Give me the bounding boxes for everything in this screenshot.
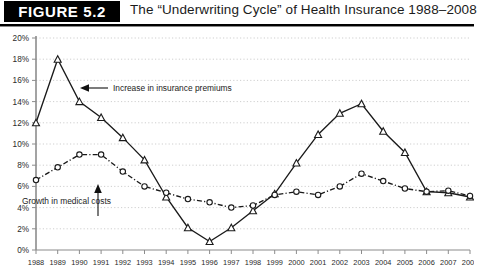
x-tick-label: 2001 xyxy=(310,258,326,267)
x-tick-label: 1997 xyxy=(223,258,239,267)
x-tick-label: 2007 xyxy=(440,258,456,267)
x-tick-label: 1989 xyxy=(49,258,65,267)
data-point-marker xyxy=(142,184,147,189)
y-tick-label: 2% xyxy=(17,225,29,234)
x-tick-label: 2003 xyxy=(353,258,369,267)
chart-area: 0%2%4%6%8%10%12%14%16%18%20% 19881989199… xyxy=(0,28,474,272)
x-tick-label: 1988 xyxy=(28,258,44,267)
x-tick-label: 1990 xyxy=(71,258,87,267)
data-point-marker xyxy=(467,193,472,198)
x-tick-label: 2002 xyxy=(332,258,348,267)
x-tick-label: 1994 xyxy=(158,258,174,267)
data-point-marker xyxy=(164,190,169,195)
annotation-label-medical-costs: Growth in medical costs xyxy=(22,196,111,206)
x-axis-ticks xyxy=(36,250,470,254)
y-tick-label: 10% xyxy=(13,140,29,149)
data-point-marker xyxy=(337,184,342,189)
data-point-marker xyxy=(98,152,103,157)
x-tick-label: 1998 xyxy=(245,258,261,267)
data-point-marker xyxy=(315,192,320,197)
x-tick-label: 1996 xyxy=(201,258,217,267)
header-divider-thin xyxy=(0,26,474,27)
annotation-label-premiums: Increase in insurance premiums xyxy=(113,83,232,93)
y-tick-label: 8% xyxy=(17,161,29,170)
x-tick-label: 2000 xyxy=(288,258,304,267)
data-point-marker xyxy=(207,200,212,205)
data-point-marker xyxy=(272,192,277,197)
data-point-marker xyxy=(120,169,125,174)
data-point-marker xyxy=(381,178,386,183)
data-point-marker xyxy=(336,110,343,116)
data-series xyxy=(33,56,474,245)
x-tick-label: 1991 xyxy=(93,258,109,267)
x-tick-label: 2004 xyxy=(375,258,391,267)
y-tick-label: 6% xyxy=(17,182,29,191)
y-tick-label: 18% xyxy=(13,55,29,64)
annotation-premiums: Increase in insurance premiums xyxy=(80,83,232,93)
x-tick-label: 2008 xyxy=(462,258,474,267)
x-tick-label: 2005 xyxy=(397,258,413,267)
x-tick-label: 2006 xyxy=(418,258,434,267)
y-tick-label: 14% xyxy=(13,98,29,107)
y-tick-label: 16% xyxy=(13,76,29,85)
data-point-marker xyxy=(446,188,451,193)
x-tick-label: 1992 xyxy=(115,258,131,267)
line-chart: 0%2%4%6%8%10%12%14%16%18%20% 19881989199… xyxy=(0,28,474,272)
data-point-marker xyxy=(229,205,234,210)
data-point-marker xyxy=(206,238,213,244)
y-axis-labels: 0%2%4%6%8%10%12%14%16%18%20% xyxy=(13,34,29,255)
series-premiums xyxy=(33,56,474,245)
x-tick-label: 1999 xyxy=(266,258,282,267)
x-tick-label: 1993 xyxy=(136,258,152,267)
chart-annotations: Increase in insurance premiumsGrowth in … xyxy=(22,83,232,216)
figure-number-banner: FIGURE 5.2 xyxy=(4,1,120,22)
annotation-arrowhead xyxy=(80,84,89,92)
data-point-marker xyxy=(55,165,60,170)
data-point-marker xyxy=(402,186,407,191)
data-point-marker xyxy=(185,196,190,201)
x-tick-label: 1995 xyxy=(180,258,196,267)
y-tick-label: 12% xyxy=(13,119,29,128)
y-tick-label: 0% xyxy=(17,246,29,255)
data-point-marker xyxy=(294,189,299,194)
data-point-marker xyxy=(77,152,82,157)
figure-header: FIGURE 5.2 The “Underwriting Cycle” of H… xyxy=(0,0,474,27)
data-point-marker xyxy=(33,177,38,182)
data-point-marker xyxy=(424,189,429,194)
figure-title: The “Underwriting Cycle” of Health Insur… xyxy=(130,2,477,17)
data-point-marker xyxy=(359,171,364,176)
data-point-marker xyxy=(250,203,255,208)
x-axis-labels: 1988198919901991199219931994199519961997… xyxy=(28,258,474,267)
y-tick-label: 20% xyxy=(13,34,29,43)
annotation-arrowhead xyxy=(94,184,102,193)
